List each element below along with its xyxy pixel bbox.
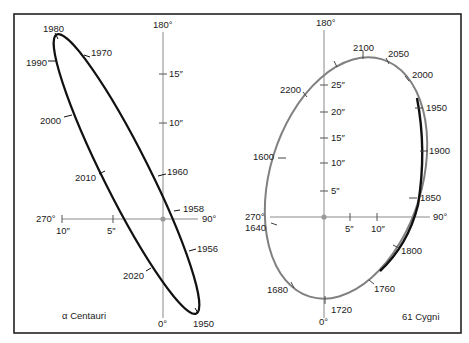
left-label-270: 270°: [36, 213, 56, 224]
61-cygni-title: 61 Cygni: [402, 311, 440, 322]
year-2010: 2010: [75, 172, 96, 183]
left-ytick-10: 10″: [169, 117, 184, 128]
year-1800: 1800: [401, 245, 422, 256]
year-2020: 2020: [123, 270, 144, 281]
year-1760: 1760: [374, 283, 395, 294]
year-1900: 1900: [429, 145, 450, 156]
right-ytick-20: 20″: [331, 106, 346, 117]
year-1680: 1680: [267, 284, 288, 295]
year-1980: 1980: [43, 23, 64, 34]
orbit-diagrams: 180° 0° 270° 90° 15″ 10″ 10″ 5″ 1980 197…: [0, 0, 469, 343]
left-primary-star: [160, 216, 165, 221]
right-ytick-5: 5″: [331, 185, 340, 196]
right-label-90: 90°: [433, 211, 448, 222]
year-2100: 2100: [353, 42, 374, 53]
year-1600: 1600: [253, 151, 274, 162]
left-ytick-15: 15″: [169, 68, 184, 79]
year-1950: 1950: [426, 102, 447, 113]
right-label-180: 180°: [316, 17, 336, 28]
right-label-270: 270°: [245, 211, 265, 222]
alpha-centauri-title: α Centauri: [62, 310, 106, 321]
right-ytick-25: 25″: [331, 79, 346, 90]
left-xtick-10: 10″: [56, 225, 71, 236]
right-xtick-10: 10″: [371, 223, 386, 234]
year-1970: 1970: [91, 47, 112, 58]
right-primary-star: [321, 214, 326, 219]
year-2050: 2050: [388, 48, 409, 59]
right-label-0: 0°: [319, 316, 328, 327]
year-1720: 1720: [331, 304, 352, 315]
year-1640: 1640: [245, 222, 266, 233]
left-label-90: 90°: [202, 213, 217, 224]
61-cygni-panel: 180° 0° 270° 90° 25″ 20″ 15″ 10″ 5″ 5″ 1…: [237, 17, 455, 327]
left-xtick-5: 5″: [107, 225, 116, 236]
alpha-centauri-panel: 180° 0° 270° 90° 15″ 10″ 10″ 5″ 1980 197…: [26, 19, 218, 329]
right-xtick-5: 5″: [345, 223, 354, 234]
year-1958: 1958: [183, 203, 204, 214]
year-2000: 2000: [40, 115, 61, 126]
year-2200: 2200: [280, 84, 301, 95]
year-1950: 1950: [193, 318, 214, 329]
year-1990: 1990: [26, 57, 47, 68]
year-2000: 2000: [412, 69, 433, 80]
right-ytick-15: 15″: [331, 132, 346, 143]
year-1850: 1850: [420, 192, 441, 203]
year-1956: 1956: [197, 243, 218, 254]
right-ytick-10: 10″: [331, 157, 346, 168]
left-label-0: 0°: [158, 318, 167, 329]
year-1960: 1960: [167, 166, 188, 177]
left-label-180: 180°: [153, 19, 173, 30]
